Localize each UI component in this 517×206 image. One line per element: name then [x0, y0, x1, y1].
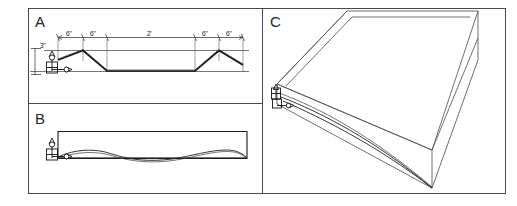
dim-label-6in-left-inner: 6"	[90, 30, 97, 37]
technical-drawing: A 6" 6" 2' 6" 6"	[0, 0, 517, 206]
deformed-profile-a	[58, 51, 243, 72]
slab-far-left-edge-c	[277, 11, 347, 84]
panel-a-profile	[58, 50, 243, 72]
panel-letter-c: C	[270, 13, 281, 30]
support-roller-c	[286, 103, 290, 107]
slab-top-offset-edge-c	[286, 17, 352, 86]
support-arrow-head-c	[274, 84, 279, 90]
support-node-a	[49, 55, 54, 60]
panel-c-isometric	[277, 11, 478, 188]
panel-b-slab	[58, 132, 247, 162]
support-fixture-c	[272, 84, 295, 108]
dim-label-3in: 3"	[40, 42, 47, 49]
dim-label-6in-left-outer: 6"	[66, 30, 73, 37]
support-fixture-b	[47, 138, 73, 160]
deformed-edge-c-2	[283, 101, 432, 188]
support-fixture-a	[47, 51, 73, 73]
slab-top-face-c	[277, 11, 478, 150]
slab-right-bottom-edge-c	[432, 38, 478, 150]
dim-label-6in-right-outer: 6"	[226, 30, 233, 37]
dim-label-2ft-center: 2'	[147, 30, 152, 37]
figure-frame	[29, 9, 506, 194]
support-roller-b	[64, 154, 69, 159]
panel-letter-a: A	[35, 13, 46, 30]
support-node-b	[49, 142, 54, 147]
figure-container: A 6" 6" 2' 6" 6"	[0, 0, 517, 206]
panel-letter-b: B	[35, 110, 46, 127]
support-roller-a	[64, 67, 69, 72]
slab-outline-b	[58, 132, 247, 159]
dim-label-6in-right-inner: 6"	[202, 30, 209, 37]
